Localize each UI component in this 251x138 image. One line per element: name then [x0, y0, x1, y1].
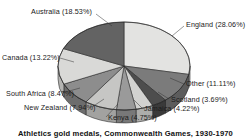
chart-title: Athletics gold medals, Commonwealth Game… — [0, 129, 251, 138]
slice-label-scotland: Scotland (3.69%) — [171, 96, 228, 104]
slice-label-other: Other (11.11%) — [186, 80, 235, 88]
slice-label-new-zealand: New Zealand (7.94%) — [24, 104, 95, 112]
slice-label-jamaica: Jamaica (4.22%) — [144, 105, 199, 113]
slice-label-south-africa: South Africa (8.47%) — [6, 90, 74, 98]
slice-label-canada: Canada (13.22%) — [2, 54, 60, 62]
pie-chart-figure: Australia (18.53%) England (28.06%) Cana… — [0, 0, 251, 138]
slice-label-australia: Australia (18.53%) — [31, 8, 92, 16]
slice-label-england: England (28.06%) — [186, 21, 245, 29]
slice-label-kenya: Kenya (4.75%) — [108, 114, 157, 122]
pie-slice-england — [124, 22, 190, 74]
